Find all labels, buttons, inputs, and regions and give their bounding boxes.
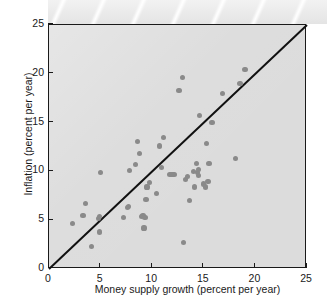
scatter-plot-figure: Money supply growth (percent per year) I…	[0, 0, 327, 304]
data-point	[167, 172, 177, 177]
y-axis-tick-label: 5	[20, 212, 44, 224]
y-axis-tick-label: 15	[20, 115, 44, 127]
data-point	[83, 201, 88, 206]
banner-stripe	[203, 0, 232, 24]
data-point	[205, 179, 210, 184]
data-point	[147, 180, 152, 185]
data-point	[233, 156, 238, 161]
data-point	[181, 240, 186, 245]
data-point	[242, 67, 247, 72]
x-axis-tick-label: 20	[241, 272, 267, 284]
data-point	[89, 244, 94, 249]
data-point	[135, 139, 140, 144]
plot-area	[48, 24, 306, 268]
data-point	[141, 225, 146, 230]
data-point	[142, 215, 147, 220]
data-point	[196, 173, 201, 178]
data-point	[70, 221, 75, 226]
data-point	[97, 214, 102, 219]
x-axis-tick-label: 25	[293, 272, 319, 284]
data-point	[209, 120, 214, 125]
data-point	[157, 143, 162, 148]
banner-stripe	[283, 0, 312, 24]
data-points-layer	[49, 25, 307, 269]
y-axis-tick-label: 0	[20, 261, 44, 273]
data-point	[154, 191, 159, 196]
data-point	[204, 141, 209, 146]
data-point	[98, 170, 103, 175]
banner-stripe	[243, 0, 272, 24]
data-point	[126, 204, 131, 209]
banner-stripe	[123, 0, 152, 24]
decorative-striped-banner	[48, 0, 327, 24]
data-point	[197, 113, 202, 118]
data-point	[80, 213, 85, 218]
data-point	[143, 197, 148, 202]
x-axis-tick-label: 10	[138, 272, 164, 284]
data-point	[180, 75, 185, 80]
x-axis-tick-label: 5	[87, 272, 113, 284]
x-axis-tick-label: 15	[190, 272, 216, 284]
data-point	[97, 229, 102, 234]
y-axis-tick-label: 20	[20, 66, 44, 78]
data-point	[203, 184, 208, 189]
data-point	[237, 81, 242, 86]
data-point	[220, 91, 225, 96]
data-point	[121, 215, 126, 220]
data-point	[194, 161, 199, 166]
data-point	[185, 174, 190, 179]
data-point	[176, 88, 181, 93]
y-axis-label: Inflation (percent per year)	[22, 54, 34, 214]
x-axis-tick-label: 0	[35, 272, 61, 284]
data-point	[144, 184, 149, 189]
data-point	[127, 168, 132, 173]
y-axis-tick-label: 10	[20, 163, 44, 175]
x-axis-label: Money supply growth (percent per year)	[48, 283, 327, 295]
data-point	[161, 135, 166, 140]
data-point	[206, 161, 211, 166]
data-point	[133, 162, 138, 167]
banner-stripe	[163, 0, 192, 24]
data-point	[196, 167, 201, 172]
data-point	[187, 198, 192, 203]
y-axis-tick-label: 25	[20, 17, 44, 29]
data-point	[137, 151, 142, 156]
data-point	[192, 184, 197, 189]
banner-stripe	[83, 0, 112, 24]
data-point	[159, 165, 164, 170]
banner-stripe	[48, 0, 72, 24]
